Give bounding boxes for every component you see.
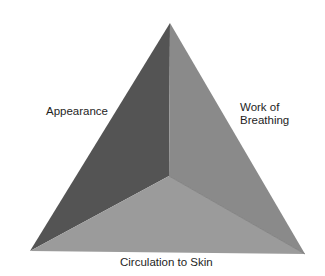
label-circulation-to-skin: Circulation to Skin — [120, 256, 213, 269]
label-appearance: Appearance — [46, 105, 108, 118]
label-work-line1: Work of — [240, 101, 289, 114]
assessment-triangle — [0, 0, 325, 276]
label-work-of-breathing: Work of Breathing — [240, 101, 289, 127]
label-work-line2: Breathing — [240, 114, 289, 127]
